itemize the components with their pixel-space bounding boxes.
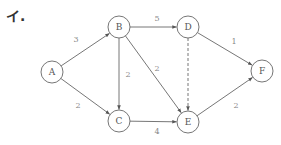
edge-A-C: 2 [61, 78, 110, 114]
edge-weight-label: 2 [125, 70, 130, 79]
node-label: B [116, 22, 123, 32]
edge-line [125, 36, 181, 113]
node-E: E [177, 111, 199, 133]
node-D: D [177, 16, 199, 38]
edge-weight-label: 4 [154, 127, 159, 136]
edge-line [61, 33, 109, 65]
edge-weight-label: 1 [231, 37, 236, 46]
node-label: A [48, 67, 56, 77]
node-label: F [259, 66, 265, 76]
nodes-layer: ABCDEF [41, 16, 273, 133]
node-label: C [116, 116, 123, 126]
node-label: E [185, 117, 192, 127]
edge-line [197, 33, 252, 66]
node-A: A [41, 61, 63, 83]
edge-line [61, 78, 110, 114]
edge-C-E: 4 [130, 121, 177, 136]
edge-weight-label: 2 [75, 101, 80, 110]
edge-B-E: 2 [125, 36, 181, 113]
edge-A-B: 3 [61, 33, 109, 65]
edge-B-D: 5 [130, 14, 177, 27]
edge-weight-label: 5 [154, 14, 159, 23]
edge-E-F: 2 [197, 78, 252, 116]
edge-B-C: 2 [119, 38, 131, 110]
edge-weight-label: 2 [233, 101, 238, 110]
edge-D-F: 1 [197, 33, 252, 66]
edge-line [197, 78, 252, 116]
edges-layer: 32252412 [61, 14, 253, 136]
edge-line [130, 121, 177, 122]
node-label: D [184, 22, 191, 32]
edge-weight-label: 3 [73, 35, 78, 44]
node-F: F [251, 60, 273, 82]
edge-weight-label: 2 [154, 64, 159, 73]
node-C: C [108, 110, 130, 132]
node-B: B [108, 16, 130, 38]
directed-graph: 32252412 ABCDEF [0, 0, 281, 145]
